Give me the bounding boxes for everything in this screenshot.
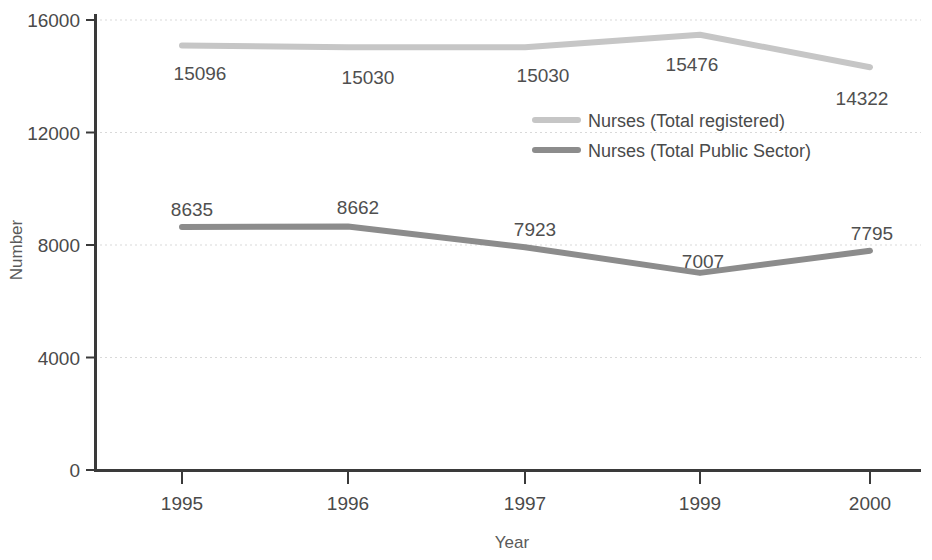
x-axis-ticks: 1995 1996 1997 1999 2000 bbox=[161, 470, 891, 514]
data-label-public-1996: 8662 bbox=[337, 197, 379, 218]
y-axis-ticks: 16000 12000 8000 4000 0 bbox=[27, 10, 95, 481]
data-label-public-1997: 7923 bbox=[514, 219, 556, 240]
data-label-registered-1997: 15030 bbox=[517, 65, 570, 86]
data-label-public-1995: 8635 bbox=[171, 199, 213, 220]
x-tick-label-1999: 1999 bbox=[679, 493, 721, 514]
data-labels-registered: 15096 15030 15030 15476 14322 bbox=[174, 54, 889, 109]
x-tick-label-1996: 1996 bbox=[327, 493, 369, 514]
legend: Nurses (Total registered) Nurses (Total … bbox=[535, 111, 811, 161]
line-chart: 16000 12000 8000 4000 0 1995 1996 1997 1… bbox=[0, 0, 932, 560]
y-tick-label-4000: 4000 bbox=[38, 348, 80, 369]
legend-label-public-sector: Nurses (Total Public Sector) bbox=[588, 141, 811, 161]
data-label-registered-1996: 15030 bbox=[342, 67, 395, 88]
series-line-registered bbox=[182, 35, 870, 67]
x-tick-label-2000: 2000 bbox=[849, 493, 891, 514]
data-label-public-2000: 7795 bbox=[851, 223, 893, 244]
x-axis-title: Year bbox=[495, 533, 530, 552]
data-label-registered-1995: 15096 bbox=[174, 63, 227, 84]
data-label-registered-1999: 15476 bbox=[666, 54, 719, 75]
data-label-registered-2000: 14322 bbox=[836, 88, 889, 109]
y-tick-label-0: 0 bbox=[69, 460, 80, 481]
y-tick-label-16000: 16000 bbox=[27, 10, 80, 31]
x-tick-label-1997: 1997 bbox=[504, 493, 546, 514]
chart-canvas: 16000 12000 8000 4000 0 1995 1996 1997 1… bbox=[0, 0, 932, 560]
y-tick-label-12000: 12000 bbox=[27, 123, 80, 144]
x-tick-label-1995: 1995 bbox=[161, 493, 203, 514]
y-tick-label-8000: 8000 bbox=[38, 235, 80, 256]
data-label-public-1999: 7007 bbox=[682, 251, 724, 272]
legend-label-registered: Nurses (Total registered) bbox=[588, 111, 785, 131]
y-axis-title: Number bbox=[7, 219, 26, 280]
